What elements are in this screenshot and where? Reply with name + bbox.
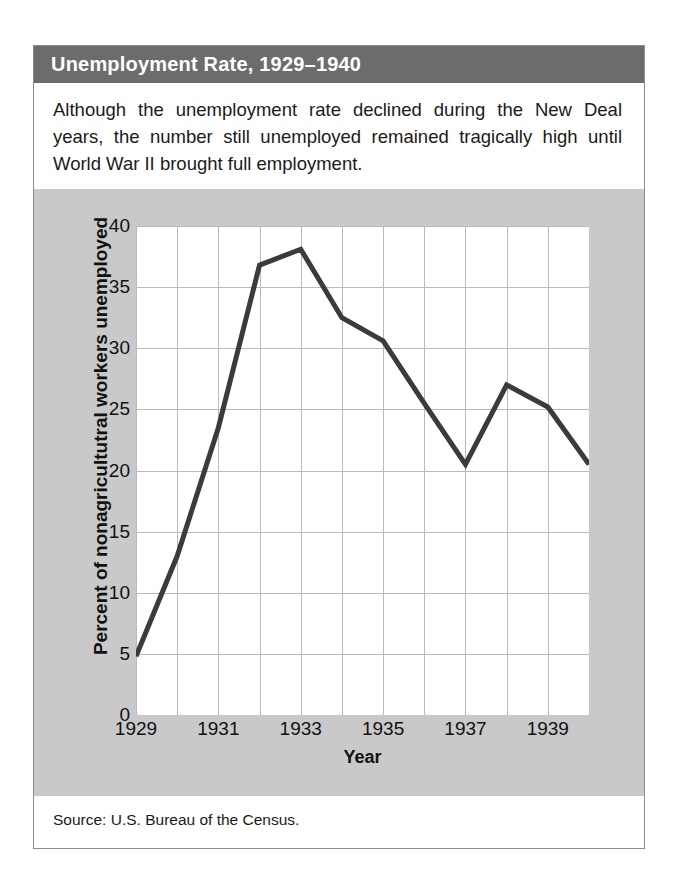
chart-panel: Percent of nonagricultutral workers unem… xyxy=(34,189,644,796)
x-axis-title: Year xyxy=(136,747,589,768)
y-tick-label: 15 xyxy=(90,522,130,541)
x-tick-label: 1939 xyxy=(518,719,578,738)
caption-text: Although the unemployment rate declined … xyxy=(53,96,622,178)
x-axis-ticks: 192919311933193519371939 xyxy=(136,719,589,745)
x-tick-label: 1931 xyxy=(188,719,248,738)
y-tick-label: 35 xyxy=(90,277,130,296)
y-tick-label: 25 xyxy=(90,399,130,418)
y-tick-label: 10 xyxy=(90,583,130,602)
x-tick-label: 1935 xyxy=(353,719,413,738)
y-tick-label: 5 xyxy=(90,644,130,663)
figure-container: Unemployment Rate, 1929–1940 Although th… xyxy=(33,45,645,849)
source-bar: Source: U.S. Bureau of the Census. xyxy=(34,796,644,848)
x-tick-label: 1937 xyxy=(435,719,495,738)
x-tick-label: 1933 xyxy=(271,719,331,738)
unemployment-rate-line xyxy=(136,249,589,656)
line-chart-svg xyxy=(136,226,589,715)
y-tick-label: 40 xyxy=(90,216,130,235)
caption-block: Although the unemployment rate declined … xyxy=(34,83,644,189)
y-tick-label: 20 xyxy=(90,461,130,480)
y-tick-label: 30 xyxy=(90,338,130,357)
x-tick-label: 1929 xyxy=(106,719,166,738)
plot-area xyxy=(136,226,589,715)
y-axis-ticks: 0510152025303540 xyxy=(86,226,130,715)
title-banner: Unemployment Rate, 1929–1940 xyxy=(34,46,644,83)
source-note: Source: U.S. Bureau of the Census. xyxy=(53,811,299,829)
page-title: Unemployment Rate, 1929–1940 xyxy=(51,53,361,76)
